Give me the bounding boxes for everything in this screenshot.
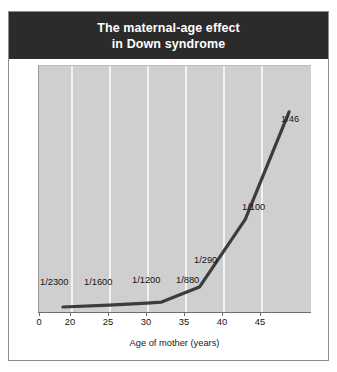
x-tick-mark-35 [184, 312, 185, 316]
x-tick-mark-40 [222, 312, 223, 316]
plot-wrapper: Incidence of Down syndrome per number of… [9, 59, 328, 360]
x-tick-label-45: 45 [255, 317, 265, 327]
x-tick-label-25: 25 [103, 317, 113, 327]
plot-area [38, 65, 311, 312]
x-axis-title: Age of mother (years) [38, 338, 311, 348]
data-label-1-1200: 1/1200 [132, 275, 160, 285]
x-tick-label-20: 20 [65, 317, 75, 327]
data-label-1-290: 1/290 [194, 255, 217, 265]
incidence-line-series [39, 66, 311, 312]
data-label-1-880: 1/880 [176, 275, 199, 285]
x-tick-label-35: 35 [179, 317, 189, 327]
x-axis-line [38, 312, 311, 313]
x-tick-mark-25 [108, 312, 109, 316]
chart-title-line-2: in Down syndrome [112, 36, 225, 52]
data-label-1-2300: 1/2300 [40, 277, 68, 287]
chart-figure: The maternal-age effect in Down syndrome… [8, 11, 329, 361]
data-label-1-100: 1/100 [242, 202, 265, 212]
x-tick-mark-0 [39, 312, 40, 316]
x-tick-label-40: 40 [217, 317, 227, 327]
chart-title-line-1: The maternal-age effect [97, 20, 240, 36]
chart-title-bar: The maternal-age effect in Down syndrome [9, 12, 328, 59]
x-tick-mark-20 [70, 312, 71, 316]
x-tick-mark-30 [146, 312, 147, 316]
data-label-1-46: 1/46 [281, 114, 299, 124]
x-tick-mark-45 [260, 312, 261, 316]
data-label-1-1600: 1/1600 [84, 277, 112, 287]
x-tick-label-30: 30 [141, 317, 151, 327]
x-tick-label-0: 0 [36, 317, 41, 327]
